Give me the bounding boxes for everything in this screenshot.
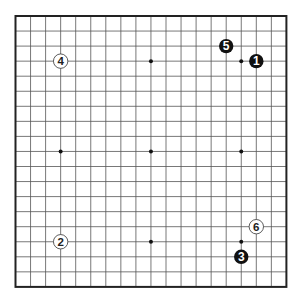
move-number-label: 4	[57, 55, 64, 67]
star-point	[149, 240, 153, 244]
star-point	[59, 149, 63, 153]
white-stone-2: 2	[53, 235, 67, 249]
move-number-label: 3	[238, 250, 245, 264]
black-stone-5: 5	[219, 39, 233, 53]
move-number-label: 6	[253, 221, 259, 233]
black-stone-1: 1	[249, 54, 263, 68]
star-point	[239, 149, 243, 153]
move-number-label: 5	[223, 39, 230, 53]
star-point	[239, 240, 243, 244]
black-stone-3: 3	[234, 250, 248, 264]
go-board: 123456	[0, 0, 301, 308]
move-number-label: 2	[57, 236, 63, 248]
star-point	[149, 149, 153, 153]
star-point	[149, 59, 153, 63]
white-stone-6: 6	[249, 220, 263, 234]
white-stone-4: 4	[53, 54, 67, 68]
move-number-label: 1	[253, 54, 260, 68]
star-point	[239, 59, 243, 63]
